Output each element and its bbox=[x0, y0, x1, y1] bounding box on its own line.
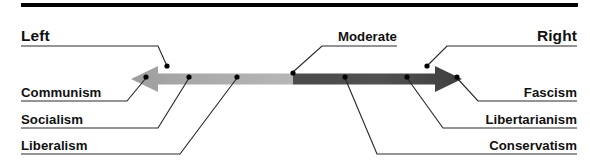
leader-line-moderate bbox=[293, 46, 397, 72]
label-group-fascism: Fascism bbox=[454, 74, 577, 101]
label-socialism: Socialism bbox=[21, 112, 83, 127]
leader-dot-socialism bbox=[186, 74, 191, 79]
label-fascism: Fascism bbox=[524, 85, 577, 100]
label-liberalism: Liberalism bbox=[21, 138, 87, 153]
label-libertarianism: Libertarianism bbox=[485, 112, 577, 127]
leader-dot-liberalism bbox=[234, 74, 239, 79]
political-spectrum-diagram: Left Moderate Right Communism Socialism bbox=[0, 0, 590, 162]
label-group-left-pole: Left bbox=[21, 27, 170, 69]
leader-dot-moderate bbox=[290, 70, 295, 75]
leader-dot-left-pole bbox=[164, 63, 169, 68]
label-right-pole: Right bbox=[537, 27, 577, 44]
spectrum-canvas: Left Moderate Right Communism Socialism bbox=[0, 0, 590, 162]
left-arrow-half bbox=[131, 66, 293, 92]
leader-dot-conservatism bbox=[342, 74, 347, 79]
label-moderate: Moderate bbox=[338, 29, 397, 44]
leader-dot-fascism bbox=[454, 74, 459, 79]
spectrum-axis-arrow bbox=[131, 66, 462, 92]
leader-line-left-pole bbox=[21, 46, 167, 66]
leader-dot-right-pole bbox=[424, 63, 429, 68]
label-left-pole: Left bbox=[21, 27, 50, 44]
label-communism: Communism bbox=[21, 85, 101, 100]
leader-dot-libertarianism bbox=[404, 74, 409, 79]
label-group-moderate: Moderate bbox=[290, 29, 397, 76]
right-arrow-half bbox=[293, 66, 462, 92]
label-conservatism: Conservatism bbox=[489, 138, 577, 153]
label-group-communism: Communism bbox=[21, 74, 149, 101]
label-group-right-pole: Right bbox=[424, 27, 577, 69]
top-divider-rule bbox=[21, 3, 578, 7]
leader-dot-communism bbox=[143, 74, 148, 79]
leader-line-right-pole bbox=[427, 46, 577, 66]
